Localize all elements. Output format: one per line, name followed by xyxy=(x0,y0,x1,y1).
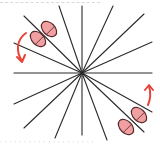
radial-line xyxy=(82,6,113,73)
capsule-lower-right-2 xyxy=(115,116,136,137)
radial-line xyxy=(82,14,144,73)
cut-off-caption: · · · · · · · · · · · · · · · · · · · · xyxy=(0,138,160,145)
rotation-arrow-right xyxy=(145,85,153,105)
radial-line xyxy=(82,73,107,140)
radial-lines xyxy=(14,6,152,140)
radial-line xyxy=(24,73,82,128)
radial-line xyxy=(82,42,152,73)
radial-line xyxy=(59,6,82,73)
capsule-lower-right-1 xyxy=(128,104,149,125)
radial-rotation-diagram xyxy=(0,0,160,145)
radial-line xyxy=(55,73,82,138)
radial-line xyxy=(14,73,82,104)
